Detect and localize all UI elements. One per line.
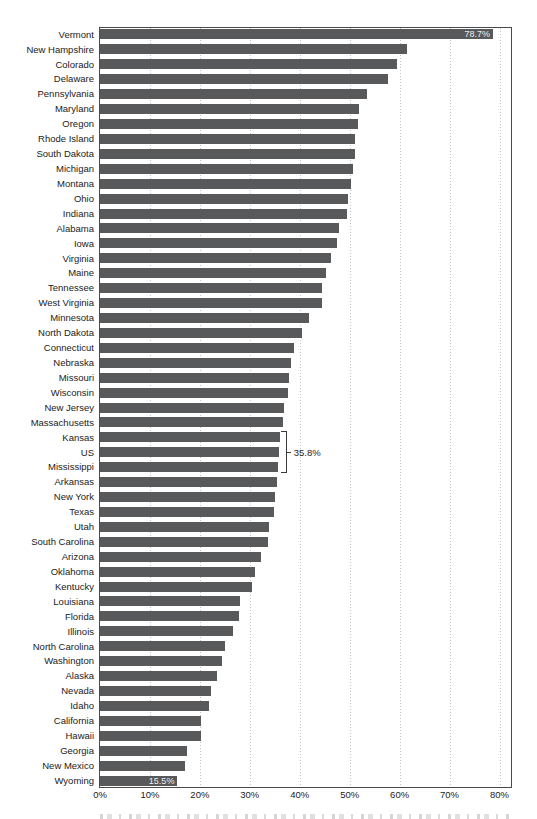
chart-row: Missouri — [0, 370, 511, 385]
x-tick-label: 60% — [390, 790, 409, 800]
bar-track — [99, 236, 511, 251]
chart-row: Montana — [0, 176, 511, 191]
bar-track — [99, 266, 511, 281]
bar-oklahoma — [100, 567, 255, 577]
category-label: Maine — [0, 268, 99, 278]
bar-massachusetts — [100, 417, 283, 427]
category-label: Utah — [0, 522, 99, 532]
bar-track — [99, 534, 511, 549]
chart-row: New Hampshire — [0, 42, 511, 57]
chart-row: Ohio — [0, 191, 511, 206]
category-label: West Virginia — [0, 298, 99, 308]
chart-row: Maryland — [0, 102, 511, 117]
bar-track — [99, 564, 511, 579]
chart-row: Idaho — [0, 698, 511, 713]
category-label: Iowa — [0, 239, 99, 249]
bar-maryland — [100, 104, 359, 114]
bar-track — [99, 161, 511, 176]
bar-track — [99, 221, 511, 236]
category-label: Idaho — [0, 701, 99, 711]
bar-track — [99, 609, 511, 624]
bar-new-york — [100, 492, 275, 502]
x-tick-label: 30% — [240, 790, 259, 800]
bar-track — [99, 639, 511, 654]
category-label: Minnesota — [0, 313, 99, 323]
chart-row: Iowa — [0, 236, 511, 251]
bar-track — [99, 57, 511, 72]
bar-missouri — [100, 373, 289, 383]
bar-track — [99, 415, 511, 430]
x-tick-label: 20% — [190, 790, 209, 800]
bar-track — [99, 758, 511, 773]
category-label: Maryland — [0, 104, 99, 114]
chart-row: Mississippi — [0, 460, 511, 475]
category-label: Louisiana — [0, 597, 99, 607]
chart-row: South Dakota — [0, 146, 511, 161]
category-label: Oregon — [0, 119, 99, 129]
chart-row: Minnesota — [0, 311, 511, 326]
chart-row: New Jersey — [0, 400, 511, 415]
bar-alaska — [100, 671, 217, 681]
bar-north-dakota — [100, 328, 302, 338]
bar-wyoming: 15.5% — [100, 776, 177, 786]
bar-iowa — [100, 238, 337, 248]
category-label: Alabama — [0, 224, 99, 234]
chart-row: Oklahoma — [0, 564, 511, 579]
bar-vermont: 78.7% — [100, 29, 493, 39]
category-label: Michigan — [0, 164, 99, 174]
chart-row: Tennessee — [0, 281, 511, 296]
bar-track — [99, 102, 511, 117]
category-label: South Carolina — [0, 537, 99, 547]
chart-row: New York — [0, 490, 511, 505]
bar-track — [99, 311, 511, 326]
bar-track — [99, 340, 511, 355]
bar-nevada — [100, 686, 211, 696]
bar-connecticut — [100, 343, 294, 353]
category-label: Wisconsin — [0, 388, 99, 398]
chart-row: New Mexico — [0, 758, 511, 773]
bar-hawaii — [100, 731, 201, 741]
chart-rows: Vermont78.7%New HampshireColoradoDelawar… — [0, 27, 511, 788]
bar-track — [99, 490, 511, 505]
bar-track — [99, 713, 511, 728]
bar-indiana — [100, 209, 347, 219]
category-label: North Carolina — [0, 642, 99, 652]
category-label: Ohio — [0, 194, 99, 204]
chart-row: Virginia — [0, 251, 511, 266]
bar-track — [99, 579, 511, 594]
x-tick-label: 50% — [340, 790, 359, 800]
bar-value-label: 78.7% — [464, 30, 490, 39]
bar-michigan — [100, 164, 353, 174]
bar-florida — [100, 611, 239, 621]
category-label: Arizona — [0, 552, 99, 562]
bar-track — [99, 624, 511, 639]
x-tick-label: 70% — [440, 790, 459, 800]
bar-new-hampshire — [100, 44, 407, 54]
bar-wisconsin — [100, 388, 288, 398]
category-label: Massachusetts — [0, 418, 99, 428]
category-label: New York — [0, 492, 99, 502]
us-callout-tick — [287, 452, 291, 453]
chart-row: Illinois — [0, 624, 511, 639]
chart-row: Arkansas — [0, 475, 511, 490]
bar-chart-figure: Vermont78.7%New HampshireColoradoDelawar… — [0, 0, 537, 819]
bar-track — [99, 117, 511, 132]
category-label: Hawaii — [0, 731, 99, 741]
chart-row: Wisconsin — [0, 385, 511, 400]
bar-utah — [100, 522, 269, 532]
chart-row: Delaware — [0, 72, 511, 87]
chart-row: Vermont78.7% — [0, 27, 511, 42]
bar-new-jersey — [100, 403, 284, 413]
bar-kansas — [100, 432, 280, 442]
category-label: Missouri — [0, 373, 99, 383]
chart-row: North Carolina — [0, 639, 511, 654]
bar-south-dakota — [100, 149, 355, 159]
category-label: Rhode Island — [0, 134, 99, 144]
chart-row: Wyoming15.5% — [0, 773, 511, 788]
category-label: New Jersey — [0, 403, 99, 413]
bar-track: 15.5% — [99, 773, 511, 788]
bar-track — [99, 87, 511, 102]
category-label: California — [0, 716, 99, 726]
category-label: Pennsylvania — [0, 89, 99, 99]
bar-track — [99, 475, 511, 490]
